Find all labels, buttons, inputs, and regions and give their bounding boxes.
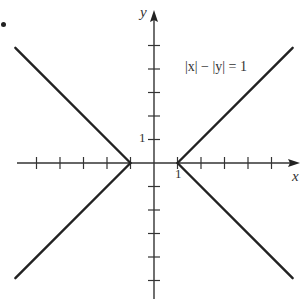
equation-annotation: |x| − |y| = 1 bbox=[185, 59, 247, 75]
y-axis-label: y bbox=[140, 4, 147, 21]
curve-upper-left bbox=[15, 48, 130, 163]
x-axis-label: x bbox=[292, 168, 299, 185]
y-tick-label-1: 1 bbox=[139, 130, 146, 146]
curve-lower-right bbox=[178, 163, 293, 278]
graph bbox=[0, 0, 307, 299]
x-tick-label-1: 1 bbox=[175, 166, 182, 182]
curve-lower-left bbox=[15, 163, 130, 278]
